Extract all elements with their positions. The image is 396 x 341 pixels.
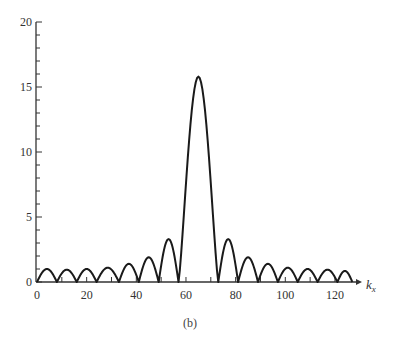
x-tick-label: 100 [276,288,294,302]
x-tick-label: 60 [180,288,192,302]
data-curve [37,77,352,282]
x-axis-label: kx [366,277,376,294]
y-tick-label: 5 [26,210,32,224]
x-tick-label: 40 [130,288,142,302]
y-axis: 05101520 [20,15,42,289]
x-tick-label: 80 [230,288,242,302]
x-axis-arrow-icon [356,279,362,285]
x-tick-label: 120 [326,288,344,302]
x-tick-label: 20 [81,288,93,302]
y-tick-label: 20 [20,15,32,29]
y-tick-label: 15 [20,80,32,94]
x-axis: 020406080100120 [34,277,362,302]
figure-caption: (b) [183,316,197,331]
y-tick-label: 10 [20,145,32,159]
chart-canvas: 05101520 020406080100120 kx [0,0,396,341]
x-tick-label: 0 [34,288,40,302]
y-tick-label: 0 [26,275,32,289]
